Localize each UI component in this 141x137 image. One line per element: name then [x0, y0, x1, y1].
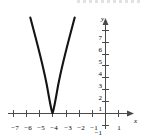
parabola-curve — [30, 18, 74, 114]
y-tick-label-neg1: −1 — [90, 121, 102, 137]
x-tick-label-neg3: −3 — [63, 116, 73, 134]
parabola-figure: −7 −6 −5 −4 −3 −2 −1 1 7 6 5 4 3 2 1 −1 — [0, 0, 141, 137]
x-tick-label-neg4: −4 — [49, 116, 59, 134]
x-tick-label-pos1: 1 — [115, 116, 123, 134]
x-tick-label-neg5: −5 — [36, 116, 46, 134]
x-tick-label-neg7: −7 — [10, 116, 20, 134]
x-tick-label-neg6: −6 — [23, 116, 33, 134]
x-tick-label-neg2: −2 — [76, 116, 86, 134]
x-axis-label: x — [134, 109, 137, 127]
y-tick-label-pos1: 1 — [93, 97, 102, 115]
x-axis-arrow-icon — [127, 111, 134, 117]
y-axis-group — [103, 18, 109, 129]
y-axis-label: y — [101, 7, 104, 25]
